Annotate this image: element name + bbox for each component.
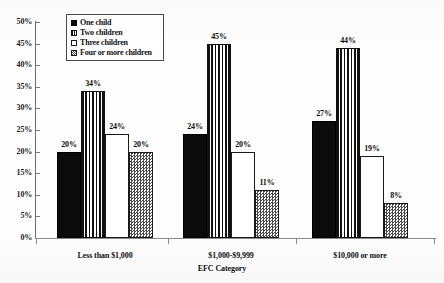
y-axis-tick-label: 50% [2,18,32,26]
bar-value-label: 11% [251,179,283,187]
bar [129,152,153,238]
y-axis-tick-label: 40% [2,61,32,69]
y-axis-tick-label: 15% [2,169,32,177]
x-axis-tick [434,239,435,244]
bar [312,121,336,238]
bar-value-label: 24% [101,123,133,131]
bar-chart-figure: 0%5%10%15%20%25%30%35%40%45%50% 20%34%24… [0,0,444,283]
y-axis-tick-label: 20% [2,148,32,156]
bar-value-label: 45% [203,33,235,41]
legend-swatch-icon [71,50,77,56]
x-axis-category-label: Less than $1,000 [45,252,165,260]
bar-value-label: 20% [227,141,259,149]
bar-value-label: 44% [332,37,364,45]
y-axis-tick-label: 30% [2,104,32,112]
chart-legend: One childTwo childrenThree childrenFour … [66,14,164,61]
bar [336,48,360,238]
y-axis-tick-label: 5% [2,212,32,220]
bar [57,152,81,238]
y-axis-tick-label: 35% [2,83,32,91]
x-axis-tick [296,239,297,244]
bar-value-label: 19% [356,145,388,153]
y-axis-tick-label: 25% [2,126,32,134]
legend-item: Two children [71,28,159,37]
bar [384,203,408,238]
y-axis-tick-label: 10% [2,191,32,199]
bar-value-label: 34% [77,80,109,88]
bar [231,152,255,238]
bar [105,134,129,238]
legend-item: Four or more children [71,48,159,57]
bar-value-label: 8% [380,192,412,200]
bar [81,91,105,238]
legend-item-label: Three children [80,38,128,47]
bar [255,190,279,238]
x-axis-title: EFC Category [0,264,444,273]
legend-swatch-icon [71,30,77,36]
legend-item: Three children [71,38,159,47]
y-axis-tick-label: 0% [2,234,32,242]
legend-item-label: Four or more children [80,48,152,57]
bar [183,134,207,238]
legend-item-label: One child [80,18,111,27]
y-axis-labels: 0%5%10%15%20%25%30%35%40%45%50% [0,0,32,283]
x-axis-category-label: $1,000-$9,999 [171,252,291,260]
x-axis-tick [168,239,169,244]
legend-swatch-icon [71,20,77,26]
legend-item: One child [71,18,159,27]
x-axis-category-label: $10,000 or more [300,252,420,260]
bar-value-label: 20% [125,141,157,149]
legend-swatch-icon [71,40,77,46]
y-axis-tick-label: 45% [2,40,32,48]
x-axis-tick [36,239,37,244]
legend-item-label: Two children [80,28,122,37]
x-axis-line [35,238,436,239]
